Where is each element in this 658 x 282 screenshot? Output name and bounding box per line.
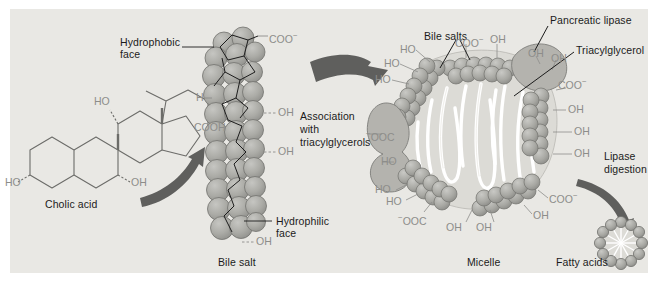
bile-salt-oh-2: OH <box>278 146 294 157</box>
micelle-lipase-oh-1: OH <box>528 48 544 59</box>
micelle-ul-ho-2: HO <box>384 58 400 69</box>
micelle-ll-ooc: −OOC <box>398 212 427 227</box>
bile-salt-coo: COO− <box>269 30 298 45</box>
bile-salt-oh-1: OH <box>278 107 294 118</box>
bile-salt-name: Bile salt <box>218 256 256 268</box>
bile-salt-oh-3: OH <box>256 236 272 247</box>
association-caption-line2: with <box>300 123 319 135</box>
figure-bile-salt-digestion: HO HO OH COOH Cholic acid Hydrophobic fa… <box>0 0 658 282</box>
micelle-ll-ho-1: HO <box>375 184 391 195</box>
bile-salt-spacefill <box>203 27 267 240</box>
cholic-acid-oh-left: HO <box>5 177 21 188</box>
micelle-right-oh-1: OH <box>568 104 584 115</box>
micelle-right-oh-3: OH <box>574 148 590 159</box>
bile-salt-rod-top <box>442 57 518 84</box>
lipase-digestion-caption-line1: Lipase <box>604 150 636 162</box>
triacylglycerol-label: Triacylglycerol <box>576 44 644 56</box>
micelle-br-coo: COO− <box>549 190 578 205</box>
micelle-ll-ho-2: HO <box>386 196 402 207</box>
cholic-acid-name: Cholic acid <box>45 198 97 210</box>
micelle-left-ho: HO <box>381 156 397 167</box>
micelle-top-coo: COO− <box>455 34 484 49</box>
pancreatic-lipase-label: Pancreatic lipase <box>550 14 632 26</box>
cholic-acid-oh-top: HO <box>94 96 110 107</box>
association-caption-line3: triacylglycerols <box>300 136 370 148</box>
micelle-lipase-oh-2: OH <box>551 53 567 64</box>
micelle-name: Micelle <box>467 256 500 268</box>
bile-salt-rod-right <box>522 88 549 164</box>
micelle-left-ooc: −OOC <box>366 128 395 143</box>
micelle-bottom-oh-1: OH <box>446 222 462 233</box>
hydrophobic-face-label-line2: face <box>120 48 140 60</box>
micelle-br-oh: OH <box>533 210 549 221</box>
cholic-acid-oh-right: OH <box>131 177 147 188</box>
micelle-ul-ho-3: HO <box>375 74 391 85</box>
micelle-right-oh-2: OH <box>574 126 590 137</box>
lipase-digestion-caption-line2: digestion <box>604 163 647 175</box>
micelle-top-oh: OH <box>490 34 506 45</box>
hydrophilic-face-label-line1: Hydrophilic <box>276 215 329 227</box>
cholic-acid-structure <box>18 90 208 188</box>
arrow-to-bile-salt <box>140 147 205 207</box>
cholic-acid-cooh: COOH <box>194 122 226 133</box>
micelle-bottom-oh-2: OH <box>476 222 492 233</box>
bile-salt-oh-left: H <box>196 92 204 103</box>
hydrophobic-face-label-line1: Hydrophobic <box>120 36 180 48</box>
micelle <box>367 44 566 216</box>
micelle-right-coo: COO− <box>558 76 587 91</box>
association-caption-line1: Association <box>300 110 355 122</box>
micelle-ul-ho-1: HO <box>400 44 416 55</box>
hydrophilic-face-label-line2: face <box>276 227 296 239</box>
fatty-acids-name: Fatty acids <box>556 256 608 268</box>
